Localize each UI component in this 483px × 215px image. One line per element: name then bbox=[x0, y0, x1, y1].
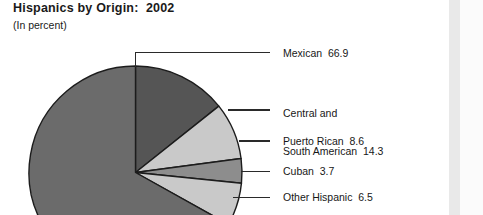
label-mexican: Mexican 66.9 bbox=[283, 47, 348, 60]
label-other-hispanic: Other Hispanic 6.5 bbox=[283, 191, 373, 204]
chart-page: Hispanics by Origin: 2002 (In percent) M… bbox=[0, 0, 483, 215]
label-central-south-american-line1: Central and bbox=[283, 107, 383, 120]
leader-line-mexican bbox=[136, 53, 271, 67]
pie-chart bbox=[0, 0, 483, 215]
label-cuban: Cuban 3.7 bbox=[283, 165, 334, 178]
label-puerto-rican: Puerto Rican 8.6 bbox=[283, 135, 364, 148]
pie-slices bbox=[29, 66, 242, 215]
